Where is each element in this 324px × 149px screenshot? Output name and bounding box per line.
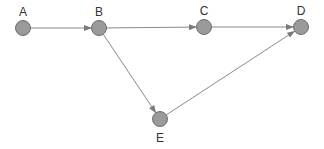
node-label: C — [200, 4, 209, 18]
graph-canvas: ABCDE — [0, 0, 324, 149]
node-d[interactable]: D — [294, 4, 309, 35]
node-label: A — [19, 5, 27, 19]
node-b[interactable]: B — [92, 5, 107, 36]
node-a[interactable]: A — [16, 5, 31, 36]
edge-b-e — [103, 34, 155, 112]
node-label: B — [95, 5, 103, 19]
node-circle[interactable] — [92, 21, 107, 36]
edges-layer — [31, 27, 295, 115]
edge-b-c — [106, 27, 196, 28]
node-circle[interactable] — [16, 21, 31, 36]
node-label: D — [297, 4, 306, 18]
node-c[interactable]: C — [197, 4, 212, 35]
node-circle[interactable] — [197, 20, 212, 35]
node-label: E — [156, 131, 164, 145]
node-e[interactable]: E — [153, 112, 168, 146]
node-circle[interactable] — [153, 112, 168, 127]
nodes-layer: ABCDE — [16, 4, 309, 145]
edge-e-d — [166, 31, 294, 115]
node-circle[interactable] — [294, 20, 309, 35]
